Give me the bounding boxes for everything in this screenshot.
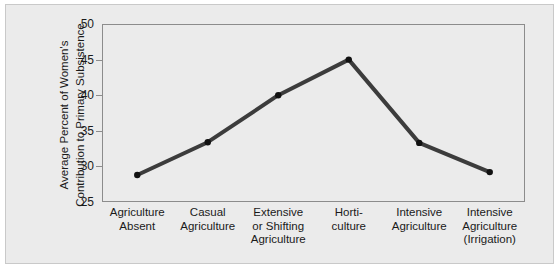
x-category-line: Agriculture: [235, 233, 321, 247]
y-tick-label-35: 35: [70, 125, 94, 137]
y-axis-tick-labels: 504540353025: [68, 5, 94, 265]
y-tick-label-40: 40: [70, 89, 94, 101]
data-point-1: [205, 139, 211, 145]
y-tick-label-45: 45: [70, 54, 94, 66]
x-axis-category-labels: AgricultureAbsentCasualAgricultureExtens…: [102, 206, 525, 264]
y-tick-label-50: 50: [70, 18, 94, 30]
series-line: [137, 60, 490, 175]
y-tick-label-25: 25: [70, 196, 94, 208]
y-tick-label-30: 30: [70, 160, 94, 172]
data-point-3: [346, 56, 352, 62]
series-markers: [134, 56, 493, 178]
data-point-0: [134, 172, 140, 178]
x-category-label-5: IntensiveAgriculture(Irrigation): [447, 206, 533, 247]
x-category-line: (Irrigation): [447, 233, 533, 247]
data-point-2: [275, 92, 281, 98]
x-category-line: Intensive: [447, 206, 533, 220]
data-point-5: [487, 169, 493, 175]
data-point-4: [416, 140, 422, 146]
x-category-line: Agriculture: [447, 220, 533, 234]
figure-panel: Average Percent of Women's Contribution …: [5, 4, 554, 264]
line-series-svg: [102, 24, 525, 202]
